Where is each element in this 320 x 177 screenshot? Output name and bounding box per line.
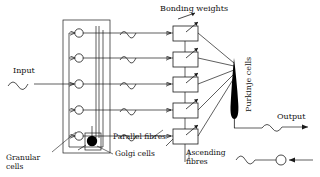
- granular-cell: [75, 132, 83, 140]
- bonding-weights-title: Bonding weights: [160, 4, 228, 13]
- parallel-fibre-wave-4: [120, 109, 136, 116]
- signal-wave-group: [120, 32, 136, 142]
- granular-cells-label: Granular cells: [6, 154, 40, 171]
- granular-cell: [75, 54, 83, 62]
- input-wave: [8, 82, 28, 90]
- golgi-cells-label: Golgi cells: [115, 150, 155, 159]
- bonding-weight-box: [173, 52, 198, 67]
- purkinje-cell-group: [230, 58, 238, 128]
- bonding-weight-box: [173, 77, 198, 92]
- input-label: Input: [13, 66, 35, 75]
- mossy-fibre-spine: [69, 30, 103, 147]
- title-leader-arrow: [178, 13, 195, 19]
- parallel-fibres-label: Parallel fibres: [113, 133, 166, 142]
- purkinje-cell: [230, 58, 238, 119]
- parallel-fibre-wave-3: [120, 83, 136, 90]
- purkinje-cells-label: Purkinje cells: [244, 57, 253, 112]
- climbing-fibre-input: [236, 155, 313, 165]
- feedback-node: [276, 155, 286, 165]
- parallel-fibre-wave-1: [120, 32, 136, 39]
- granular-cell-group: [75, 29, 83, 140]
- parallel-fibre-group: [83, 33, 173, 136]
- diagram-canvas: Bonding weights Input Output Granular ce…: [0, 0, 320, 177]
- granular-cell: [75, 29, 83, 37]
- bonding-weight-box-group: [173, 26, 198, 144]
- bonding-weight-box: [173, 26, 198, 41]
- bonding-weight-box: [173, 103, 198, 118]
- bonding-weight-box: [173, 129, 198, 144]
- parallel-fibre-wave-2: [120, 57, 136, 64]
- cerebellum-network-diagram: [0, 0, 320, 177]
- output-axon: [234, 125, 308, 132]
- purkinje-input-fibre-group: [198, 33, 234, 136]
- ascending-fibres-label: Ascending fibres: [186, 149, 226, 166]
- output-label: Output: [277, 112, 305, 121]
- granular-cell: [75, 106, 83, 114]
- golgi-feedback-bus: [96, 26, 99, 138]
- golgi-cell: [87, 136, 97, 146]
- granular-cell: [75, 80, 83, 88]
